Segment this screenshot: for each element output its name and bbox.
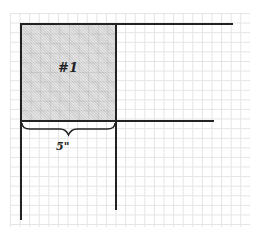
region-label: #1 xyxy=(58,60,78,75)
dimension-brace-icon xyxy=(20,122,117,138)
dimension-label: 5" xyxy=(56,140,69,153)
top-horizontal-line xyxy=(20,23,233,25)
right-vertical-line xyxy=(115,23,117,210)
